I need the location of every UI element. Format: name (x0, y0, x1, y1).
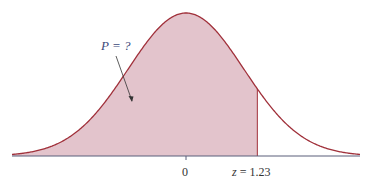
tick-label-zero: 0 (182, 165, 188, 180)
tick-label-z: z = 1.23 (232, 165, 270, 180)
shaded-area (12, 13, 257, 156)
probability-annotation: P = ? (101, 38, 130, 54)
normal-curve-figure: P = ? 0 z = 1.23 (0, 0, 375, 196)
